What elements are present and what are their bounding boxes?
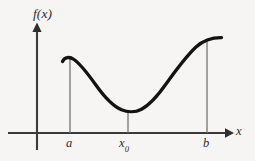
- function-curve: [63, 38, 222, 112]
- tick-label-x0-base: x: [119, 136, 125, 150]
- y-axis-arrowhead: [32, 23, 41, 33]
- tick-label-x0-subscript: 0: [125, 144, 129, 154]
- function-graph-figure: f(x) x a x0 b: [0, 0, 255, 161]
- x-axis-label: x: [236, 125, 242, 138]
- tick-label-x0: x0: [119, 137, 129, 152]
- x-axis-arrowhead: [225, 128, 234, 137]
- tick-label-b: b: [203, 137, 209, 150]
- tick-label-a: a: [66, 137, 72, 150]
- y-axis-label: f(x): [33, 7, 52, 21]
